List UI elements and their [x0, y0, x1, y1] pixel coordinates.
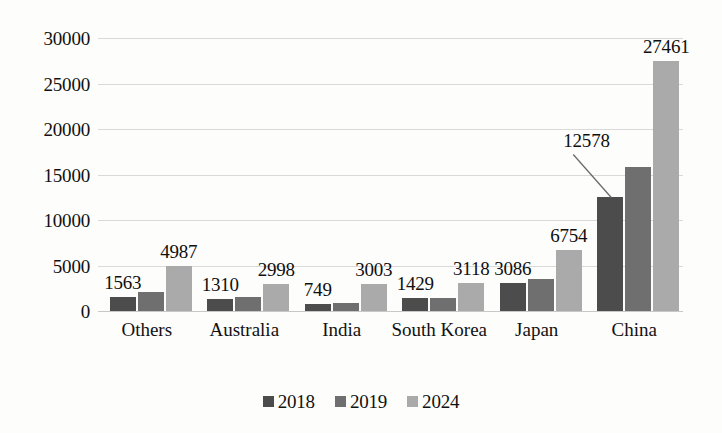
y-tick-label: 25000 [2, 75, 90, 94]
bar-south-korea-2024[interactable] [458, 283, 484, 311]
x-axis-category-labels: OthersAustraliaIndiaSouth KoreaJapanChin… [98, 318, 683, 388]
axis-baseline [98, 311, 683, 312]
bar-india-2019[interactable] [333, 303, 359, 311]
bar-india-2018[interactable] [305, 304, 331, 311]
legend-swatch-icon [263, 396, 274, 407]
bar-chart: 050001000015000200002500030000 OthersAus… [0, 0, 722, 433]
y-tick-label: 30000 [2, 29, 90, 48]
legend-label: 2024 [422, 392, 459, 411]
x-tick-label: Australia [196, 318, 294, 341]
bar-value-label: 27461 [633, 37, 699, 56]
legend-label: 2019 [350, 392, 387, 411]
bar-value-label: 749 [285, 280, 351, 299]
x-tick-label: India [293, 318, 391, 341]
y-tick-label: 5000 [2, 257, 90, 276]
bar-china-2024[interactable] [653, 61, 679, 311]
bar-china-2019[interactable] [625, 167, 651, 311]
bar-others-2019[interactable] [138, 292, 164, 311]
callout-value-label: 12578 [563, 131, 610, 150]
bar-group [586, 38, 684, 311]
legend-item-2019[interactable]: 2019 [335, 392, 387, 411]
bar-australia-2018[interactable] [207, 299, 233, 311]
bar-japan-2024[interactable] [556, 250, 582, 311]
y-tick-label: 20000 [2, 120, 90, 139]
legend-swatch-icon [335, 396, 346, 407]
bar-others-2018[interactable] [110, 297, 136, 311]
x-tick-label: South Korea [391, 318, 489, 341]
y-tick-label: 10000 [2, 211, 90, 230]
legend-swatch-icon [407, 396, 418, 407]
bar-china-2018[interactable] [597, 197, 623, 311]
y-axis: 050001000015000200002500030000 [0, 38, 90, 311]
bar-japan-2019[interactable] [528, 279, 554, 311]
x-tick-label: Japan [488, 318, 586, 341]
bar-value-label: 2998 [243, 260, 309, 279]
legend-item-2024[interactable]: 2024 [407, 392, 459, 411]
bar-japan-2018[interactable] [500, 283, 526, 311]
legend-item-2018[interactable]: 2018 [263, 392, 315, 411]
x-tick-label: Others [98, 318, 196, 341]
bar-value-label: 4987 [146, 242, 212, 261]
y-tick-label: 0 [2, 302, 90, 321]
bar-value-label: 1563 [90, 273, 156, 292]
bar-value-label: 6754 [536, 226, 602, 245]
bar-australia-2019[interactable] [235, 297, 261, 311]
chart-legend: 201820192024 [0, 392, 722, 411]
bar-south-korea-2019[interactable] [430, 298, 456, 311]
y-tick-label: 15000 [2, 166, 90, 185]
legend-label: 2018 [278, 392, 315, 411]
bar-south-korea-2018[interactable] [402, 298, 428, 311]
bar-group [98, 38, 196, 311]
bar-value-label: 3086 [480, 259, 546, 278]
x-tick-label: China [586, 318, 684, 341]
